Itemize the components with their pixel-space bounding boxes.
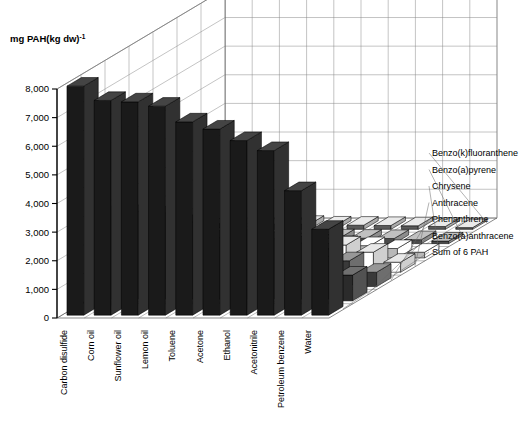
bar-face <box>429 226 446 229</box>
bar-face <box>401 226 418 230</box>
bar-face <box>312 229 329 315</box>
legend-label-3: Anthracene <box>432 198 478 208</box>
bar-face <box>121 102 138 315</box>
category-label-5: Acetone <box>195 330 205 363</box>
bar-0-0 <box>67 78 98 316</box>
y-axis-tick-label: 7,000 <box>25 112 49 123</box>
category-label-4: Toluene <box>167 330 177 362</box>
legend-label-1: Benzo(a)anthracene <box>432 231 514 241</box>
bar-0-2 <box>121 93 152 315</box>
bar-face <box>257 151 274 316</box>
y-axis-title: mg PAH(kg dw)-1 <box>10 33 86 45</box>
bar-0-7 <box>257 142 288 315</box>
category-label-0: Carbon disulfide <box>59 330 69 395</box>
chart-figure: 01,0002,0003,0004,0005,0006,0007,0008,00… <box>0 0 523 448</box>
legend-label-0: Sum of 6 PAH <box>432 247 488 257</box>
bar-face <box>176 122 193 315</box>
bar-face <box>203 129 220 315</box>
y-axis-tick-label: 2,000 <box>25 255 49 266</box>
bar-face <box>347 225 364 229</box>
category-label-9: Water <box>303 330 313 354</box>
bar-0-8 <box>285 182 316 315</box>
bar-0-6 <box>230 132 261 315</box>
category-label-2: Sunflower oil <box>113 330 123 382</box>
category-label-3: Lemon oil <box>140 330 150 369</box>
category-label-1: Corn oil <box>86 330 96 361</box>
y-axis-tick-label: 4,000 <box>25 198 49 209</box>
legend-label-5: Benzo(a)pyrene <box>432 165 496 175</box>
y-axis-tick-label: 1,000 <box>25 284 49 295</box>
y-axis-tick-label: 0 <box>44 312 49 323</box>
y-axis-tick-label: 6,000 <box>25 141 49 152</box>
y-axis-tick-label: 5,000 <box>25 169 49 180</box>
legend-label-6: Benzo(k)fluoranthene <box>432 148 518 158</box>
bar-face <box>329 221 343 315</box>
bar-face <box>374 225 391 229</box>
category-label-8: Petroleum benzene <box>276 330 286 408</box>
bar-0-5 <box>203 120 234 315</box>
bar-face <box>230 141 247 316</box>
bar-face <box>285 191 302 316</box>
bar-0-4 <box>176 113 207 315</box>
chart-canvas: 01,0002,0003,0004,0005,0006,0007,0008,00… <box>0 0 523 448</box>
category-label-6: Ethanol <box>222 330 232 361</box>
bar-0-1 <box>94 92 125 315</box>
bar-face <box>432 241 449 244</box>
y-axis-tick-label: 8,000 <box>25 83 49 94</box>
bar-face <box>67 86 84 315</box>
bar-0-3 <box>149 98 180 316</box>
bar-face <box>94 100 111 315</box>
bar-0-9 <box>312 221 343 315</box>
legend-label-4: Chrysene <box>432 181 471 191</box>
category-label-7: Acetonitrile <box>249 330 259 375</box>
bar-face <box>149 106 166 315</box>
y-axis-tick-label: 3,000 <box>25 227 49 238</box>
legend-label-2: Phenanthrene <box>432 214 489 224</box>
